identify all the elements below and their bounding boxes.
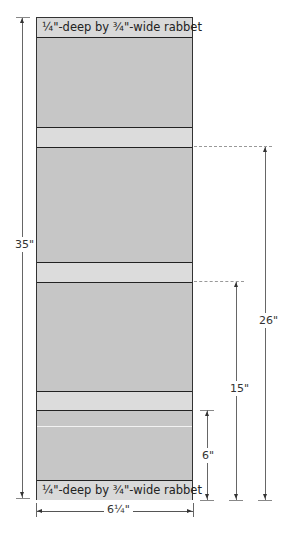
arrow-down-icon	[234, 494, 238, 499]
dim-tick	[16, 498, 30, 499]
arrow-up-icon	[234, 282, 238, 287]
arrow-right-icon	[187, 509, 192, 513]
height-dimension-line	[22, 18, 23, 498]
arrow-up-icon	[20, 18, 24, 23]
dim-label-26: 26"	[259, 313, 278, 328]
width-label: 6¼"	[104, 503, 133, 516]
dim-tick	[258, 500, 272, 501]
top-rabbet-label: ¼"-deep by ¾"-wide rabbet	[37, 18, 192, 37]
board-section	[37, 411, 192, 480]
dim-tick	[200, 500, 214, 501]
dim-tick	[229, 500, 243, 501]
lower-dado-band	[37, 392, 192, 410]
arrow-left-icon	[37, 509, 42, 513]
board-section	[37, 148, 192, 262]
upper-dado-band	[37, 128, 192, 147]
arrow-up-icon	[205, 411, 209, 416]
board-section	[37, 283, 192, 391]
middle-dado-band	[37, 263, 192, 282]
arrow-down-icon	[205, 494, 209, 499]
panel-board: ¼"-deep by ¾"-wide rabbet ¼"-deep by ¾"-…	[36, 17, 193, 500]
overall-height-label: 35"	[15, 237, 34, 252]
dim-label-15: 15"	[230, 381, 249, 396]
arrow-up-icon	[263, 147, 267, 152]
bottom-rabbet-label: ¼"-deep by ¾"-wide rabbet	[37, 481, 192, 500]
board-section	[37, 38, 192, 127]
dim-tick	[193, 503, 194, 517]
dim-label-6: 6"	[202, 448, 214, 463]
extension-line	[194, 146, 272, 147]
highlight-line	[37, 426, 192, 427]
arrow-down-icon	[20, 492, 24, 497]
arrow-down-icon	[263, 494, 267, 499]
